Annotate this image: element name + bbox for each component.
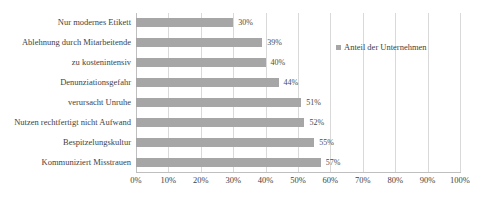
x-tick-label: 90% bbox=[420, 175, 436, 185]
bar-value-label: 40% bbox=[271, 58, 286, 67]
category-label: Ablehnung durch Mitarbeitende bbox=[0, 38, 131, 47]
x-tick-label: 100% bbox=[450, 175, 470, 185]
bar bbox=[136, 158, 321, 167]
bar bbox=[136, 98, 301, 107]
bar bbox=[136, 138, 314, 147]
chart-legend: Anteil der Unternehmen bbox=[336, 42, 427, 52]
bar-value-label: 30% bbox=[238, 18, 253, 27]
category-label: Nutzen rechtfertigt nicht Aufwand bbox=[0, 118, 131, 127]
gridline-100% bbox=[460, 13, 461, 172]
bar-row: 51% bbox=[136, 98, 460, 107]
bar-row: 30% bbox=[136, 18, 460, 27]
x-tick-label: 30% bbox=[225, 175, 241, 185]
x-tick-label: 10% bbox=[161, 175, 177, 185]
x-tick-label: 20% bbox=[193, 175, 209, 185]
bar-value-label: 44% bbox=[284, 78, 299, 87]
category-label: zu kostenintensiv bbox=[0, 58, 131, 67]
bar-value-label: 51% bbox=[306, 98, 321, 107]
x-tick-label: 80% bbox=[387, 175, 403, 185]
category-label: Bespitzelungskultur bbox=[0, 138, 131, 147]
x-tick-label: 70% bbox=[355, 175, 371, 185]
bar-value-label: 52% bbox=[309, 118, 324, 127]
category-label: verursacht Unruhe bbox=[0, 98, 131, 107]
bar bbox=[136, 38, 262, 47]
bar-row: 57% bbox=[136, 158, 460, 167]
bar-row: 55% bbox=[136, 138, 460, 147]
bar bbox=[136, 118, 304, 127]
bar-value-label: 39% bbox=[267, 38, 282, 47]
bar-rows: 30%39%40%44%51%52%55%57% bbox=[136, 13, 460, 172]
category-label: Kommuniziert Misstrauen bbox=[0, 158, 131, 167]
legend-swatch-icon bbox=[336, 45, 341, 50]
bar bbox=[136, 58, 266, 67]
category-axis-labels: Nur modernes EtikettAblehnung durch Mita… bbox=[0, 13, 131, 172]
category-label: Nur modernes Etikett bbox=[0, 18, 131, 27]
bar-value-label: 55% bbox=[319, 138, 334, 147]
x-tick-label: 60% bbox=[323, 175, 339, 185]
category-label: Denunziationsgefahr bbox=[0, 78, 131, 87]
bar-chart: Nur modernes EtikettAblehnung durch Mita… bbox=[0, 0, 481, 206]
legend-label: Anteil der Unternehmen bbox=[344, 42, 427, 52]
plot-area: 30%39%40%44%51%52%55%57% bbox=[136, 13, 460, 172]
x-axis-line bbox=[136, 172, 461, 173]
bar-value-label: 57% bbox=[326, 158, 341, 167]
bar bbox=[136, 78, 279, 87]
bar-row: 44% bbox=[136, 78, 460, 87]
bar bbox=[136, 18, 233, 27]
x-tick-label: 40% bbox=[258, 175, 274, 185]
x-tick-label: 50% bbox=[290, 175, 306, 185]
bar-row: 40% bbox=[136, 58, 460, 67]
x-axis-tick-labels: 0%10%20%30%40%50%60%70%80%90%100% bbox=[136, 175, 460, 189]
x-tick-label: 0% bbox=[130, 175, 141, 185]
bar-row: 52% bbox=[136, 118, 460, 127]
